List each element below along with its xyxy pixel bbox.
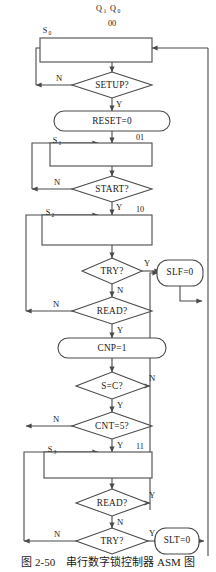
decision-text-setup: SETUP? [95, 80, 129, 90]
decision-text-seqc: S=C? [101, 381, 123, 391]
branch-try2-no: N [54, 529, 61, 539]
decision-text-cnt5: CNT=5? [95, 421, 129, 431]
state-label-s0: S [43, 26, 48, 35]
asm-chart-figure: Q 1 Q 0 S 0 00 S 1 01 S 2 10 S 3 11 SETU… [0, 0, 216, 572]
branch-start-yes: Y [116, 202, 122, 212]
header-q1-sub: 1 [104, 8, 107, 14]
decision-text-try2: TRY? [100, 536, 123, 546]
state-sub-s1: 1 [59, 140, 62, 146]
branch-cnt5-yes: Y [117, 440, 123, 450]
edge-slf-out [180, 286, 202, 301]
decision-text-start: START? [95, 184, 128, 194]
state-box-s1[interactable] [50, 143, 152, 166]
branch-cnt5-no: N [53, 414, 60, 424]
header-q0-sub: 0 [118, 8, 121, 14]
output-text-reset: RESET=0 [92, 116, 132, 126]
branch-try2-yes: Y [149, 528, 155, 538]
branch-read1-yes: Y [117, 325, 123, 335]
state-label-s1: S [53, 136, 58, 145]
branch-setup-no: N [56, 73, 63, 83]
header-q1: Q [96, 4, 102, 13]
decision-text-read1: READ? [97, 306, 127, 316]
output-text-slf: SLF=0 [167, 267, 194, 277]
state-box-s3[interactable] [44, 452, 152, 478]
header-q0: Q [110, 4, 116, 13]
state-code-s1: 01 [136, 133, 144, 142]
state-code-s0: 00 [108, 19, 116, 28]
output-text-cnp: CNP=1 [98, 343, 127, 353]
state-label-s2: S [46, 208, 51, 217]
header-register-label: Q 1 Q 0 [96, 4, 121, 14]
branch-read2-yes: Y [149, 490, 155, 500]
state-sub-s0: 0 [49, 30, 52, 36]
branch-setup-yes: Y [116, 99, 122, 109]
asm-flowchart: Q 1 Q 0 S 0 00 S 1 01 S 2 10 S 3 11 SETU… [0, 0, 216, 572]
output-text-slt: SLT=0 [164, 535, 191, 545]
branch-try1-yes: Y [144, 258, 150, 268]
branch-try1-no: N [117, 285, 124, 295]
state-sub-s3: 3 [54, 449, 57, 455]
branch-read2-no: N [117, 517, 124, 527]
state-label-s3: S [48, 445, 53, 454]
state-code-s3: 11 [136, 442, 144, 451]
figure-caption-title: 串行数字锁控制器 ASM 图 [66, 556, 194, 568]
state-code-s2: 10 [136, 205, 144, 214]
branch-start-no: N [54, 177, 61, 187]
branch-seqc-no: N [149, 373, 156, 383]
decision-text-try1: TRY? [100, 266, 123, 276]
state-box-s0[interactable] [40, 38, 152, 62]
branch-seqc-yes: Y [117, 400, 123, 410]
branch-read1-no: N [53, 299, 60, 309]
state-box-s2[interactable] [42, 215, 152, 245]
figure-caption: 图 2-50 串行数字锁控制器 ASM 图 [0, 553, 216, 569]
state-sub-s2: 2 [52, 212, 55, 218]
decision-text-read2: READ? [97, 498, 127, 508]
figure-caption-number: 图 2-50 [21, 556, 55, 568]
